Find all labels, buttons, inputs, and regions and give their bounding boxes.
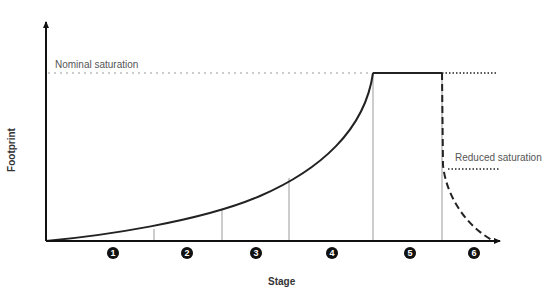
x-axis-label: Stage [268, 276, 295, 287]
stage-marker-4: 4 [326, 247, 338, 259]
stage-marker-3: 3 [250, 247, 262, 259]
growth-curve [46, 73, 373, 241]
nominal-saturation-label: Nominal saturation [55, 59, 138, 70]
stage-marker-6: 6 [468, 247, 480, 259]
stage-marker-5: 5 [404, 247, 416, 259]
stage-marker-1: 1 [107, 247, 119, 259]
stage-marker-2: 2 [181, 247, 193, 259]
reduced-saturation-label: Reduced saturation [455, 152, 542, 163]
y-axis-label: Footprint [6, 128, 17, 172]
